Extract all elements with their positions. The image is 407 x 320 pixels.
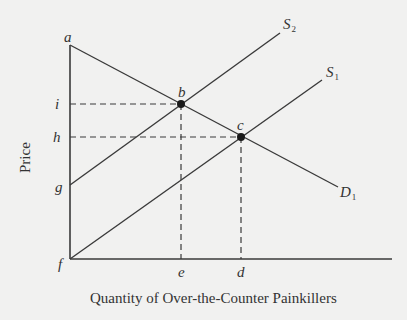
diagram-graphics	[0, 0, 407, 320]
label-s2-subscript: 2	[292, 24, 297, 34]
label-s2-main: S	[283, 16, 291, 32]
label-b: b	[178, 85, 186, 100]
supply-curve-s1	[70, 80, 322, 259]
label-e: e	[178, 265, 185, 280]
label-s1-subscript: 1	[335, 72, 340, 82]
label-d1: D1	[340, 185, 356, 202]
label-d: d	[237, 265, 245, 280]
label-i: i	[55, 97, 59, 112]
label-s1-main: S	[326, 64, 334, 80]
supply-curve-s2	[70, 33, 280, 185]
equilibrium-point-b	[177, 100, 185, 108]
equilibrium-point-c	[237, 133, 245, 141]
label-g: g	[55, 180, 63, 195]
label-f: f	[58, 257, 62, 272]
label-s1: S1	[326, 65, 339, 82]
y-axis-title: Price	[18, 142, 33, 173]
label-d1-subscript: 1	[352, 192, 357, 202]
label-d1-main: D	[340, 184, 351, 200]
x-axis-title: Quantity of Over-the-Counter Painkillers	[90, 291, 337, 306]
label-h: h	[53, 130, 61, 145]
demand-curve-d1	[70, 45, 338, 187]
label-a: a	[64, 30, 72, 45]
label-c: c	[237, 118, 244, 133]
label-s2: S2	[283, 17, 296, 34]
supply-demand-diagram: a i h g f b c e d S2 S1 D1 Price Quantit…	[0, 0, 407, 320]
